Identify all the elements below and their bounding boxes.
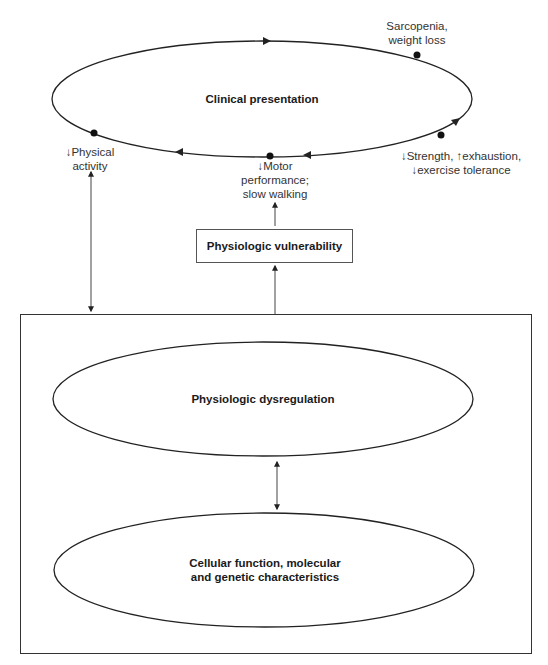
lower-panel <box>20 314 532 654</box>
clinical-presentation-title: Clinical presentation <box>162 92 362 106</box>
cellular-function-label: Cellular function, molecular and genetic… <box>150 556 380 584</box>
physiologic-vulnerability-box: Physiologic vulnerability <box>196 229 353 263</box>
physiologic-vulnerability-label: Physiologic vulnerability <box>207 240 342 252</box>
node-dot-sarcopenia <box>414 52 421 59</box>
node-dot-activity <box>91 130 98 137</box>
cycle-arrow-right-icon <box>451 118 460 126</box>
strength-label: ↓Strength, ↑exhaustion, ↓exercise tolera… <box>386 149 536 177</box>
node-dot-strength <box>438 132 445 139</box>
motor-label: ↓Motor performance; slow walking <box>225 159 325 201</box>
sarcopenia-label: Sarcopenia, weight loss <box>372 19 462 47</box>
cycle-arrow-bottom-right-icon <box>303 151 311 159</box>
physiologic-dysregulation-label: Physiologic dysregulation <box>163 392 363 406</box>
cycle-arrow-bottom-left-icon <box>175 148 183 156</box>
cycle-arrow-top-icon <box>263 37 271 45</box>
physical-activity-label: ↓Physical activity <box>50 145 130 173</box>
